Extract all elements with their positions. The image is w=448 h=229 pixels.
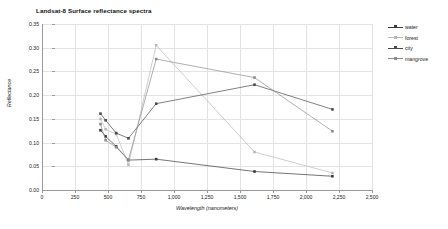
y-tick-label: 0.15 — [29, 116, 39, 122]
legend-item-water[interactable]: water — [388, 22, 448, 33]
x-tick-label: 1,750 — [267, 194, 280, 200]
x-tick-label: 2,000 — [300, 194, 313, 200]
legend-label: city — [405, 45, 413, 51]
x-tick-mark — [372, 190, 373, 193]
y-tick-mark — [52, 24, 55, 25]
data-point — [155, 58, 158, 61]
data-point — [253, 76, 256, 79]
data-point — [331, 175, 334, 178]
data-point — [127, 158, 130, 161]
y-tick-mark — [52, 95, 55, 96]
legend-swatch-icon — [388, 24, 403, 31]
series-line — [100, 59, 332, 160]
x-tick-label: 2,250 — [333, 194, 346, 200]
plot-area — [42, 24, 372, 190]
x-tick-mark — [240, 190, 241, 193]
legend-swatch-icon — [388, 45, 403, 52]
gridline-vertical — [372, 24, 373, 190]
data-point — [253, 83, 256, 86]
y-tick-label: 0.00 — [29, 187, 39, 193]
chart-container: Landsat-8 Surface reflectance spectra 0.… — [0, 0, 448, 229]
x-tick-mark — [273, 190, 274, 193]
data-point — [115, 146, 118, 149]
x-tick-label: 500 — [104, 194, 113, 200]
data-point — [155, 44, 158, 47]
data-point — [99, 118, 102, 121]
legend-item-forest[interactable]: forest — [388, 33, 448, 44]
x-tick-label: 0 — [41, 194, 44, 200]
x-tick-mark — [75, 190, 76, 193]
x-tick-mark — [108, 190, 109, 193]
y-tick-label: 0.25 — [29, 68, 39, 74]
x-tick-label: 1,000 — [168, 194, 181, 200]
data-point — [127, 164, 130, 167]
series-forest — [99, 44, 334, 174]
x-tick-label: 1,500 — [234, 194, 247, 200]
x-axis-title: Wavelength (nanometers) — [42, 205, 372, 211]
data-point — [253, 151, 256, 154]
y-axis-line — [42, 24, 43, 190]
y-tick-mark — [52, 119, 55, 120]
legend-label: forest — [405, 35, 418, 41]
data-point — [104, 119, 107, 122]
series-line — [100, 45, 332, 173]
x-tick-label: 1,250 — [201, 194, 214, 200]
data-point — [104, 139, 107, 142]
y-tick-mark — [52, 166, 55, 167]
y-tick-label: 0.35 — [29, 21, 39, 27]
y-tick-label: 0.10 — [29, 140, 39, 146]
series-city — [99, 83, 334, 139]
x-tick-mark — [207, 190, 208, 193]
legend-label: water — [405, 24, 418, 30]
data-point — [155, 158, 158, 161]
data-point — [104, 128, 107, 131]
x-tick-mark — [306, 190, 307, 193]
data-point — [331, 108, 334, 111]
data-point — [253, 170, 256, 173]
y-tick-mark — [52, 71, 55, 72]
data-point — [115, 132, 118, 135]
legend-swatch-icon — [388, 34, 403, 41]
y-tick-label: 0.05 — [29, 163, 39, 169]
data-point — [331, 172, 334, 175]
x-tick-label: 2,500 — [366, 194, 379, 200]
x-tick-mark — [174, 190, 175, 193]
x-tick-mark — [42, 190, 43, 193]
data-point — [99, 112, 102, 115]
series-lines — [42, 24, 372, 190]
chart-legend: waterforestcitymangrove — [388, 22, 448, 64]
legend-item-city[interactable]: city — [388, 43, 448, 54]
series-mangrove — [99, 58, 334, 161]
y-axis-title: Reflectance — [6, 58, 12, 128]
x-tick-label: 750 — [137, 194, 146, 200]
series-line — [100, 85, 332, 139]
legend-label: mangrove — [405, 56, 428, 62]
x-tick-mark — [141, 190, 142, 193]
y-tick-label: 0.30 — [29, 45, 39, 51]
legend-item-mangrove[interactable]: mangrove — [388, 54, 448, 65]
data-point — [331, 130, 334, 133]
legend-swatch-icon — [388, 55, 403, 62]
y-tick-mark — [52, 48, 55, 49]
y-tick-mark — [52, 143, 55, 144]
data-point — [127, 137, 130, 140]
y-tick-label: 0.20 — [29, 92, 39, 98]
chart-title: Landsat-8 Surface reflectance spectra — [36, 7, 151, 14]
x-tick-label: 250 — [71, 194, 80, 200]
series-water — [99, 129, 334, 178]
data-point — [99, 123, 102, 126]
data-point — [99, 129, 102, 132]
series-line — [100, 130, 332, 176]
y-axis-ticks: 0.000.050.100.150.200.250.300.35 — [14, 24, 39, 190]
x-tick-mark — [339, 190, 340, 193]
data-point — [155, 102, 158, 105]
